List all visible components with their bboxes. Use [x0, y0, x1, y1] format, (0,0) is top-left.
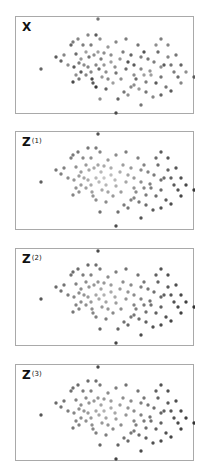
data-point [59, 289, 62, 292]
data-point [172, 300, 175, 303]
data-point [169, 63, 172, 66]
data-point [118, 57, 121, 60]
data-point [76, 150, 79, 153]
panel-z3: Z(3) [15, 364, 194, 461]
data-point [159, 439, 162, 442]
data-point [94, 198, 97, 201]
data-point [139, 285, 142, 288]
data-point [111, 311, 114, 314]
data-point [77, 423, 80, 426]
data-point [139, 216, 142, 219]
data-point [79, 183, 82, 186]
data-point [91, 194, 94, 197]
data-point [159, 383, 162, 386]
data-point [136, 389, 139, 392]
data-point [77, 307, 80, 310]
data-point [62, 399, 65, 402]
panel-z1: Z(1) [15, 131, 194, 230]
data-point [86, 178, 89, 181]
data-point [139, 297, 142, 300]
data-point [166, 55, 169, 58]
data-point [102, 164, 105, 167]
data-point [71, 270, 74, 273]
scatter-plot-x [16, 17, 195, 115]
data-point [114, 224, 117, 227]
data-point [146, 287, 149, 290]
data-point [176, 421, 179, 424]
data-point [149, 186, 152, 189]
data-point [169, 176, 172, 179]
data-point [69, 156, 72, 159]
data-point [166, 401, 169, 404]
data-point [179, 194, 182, 197]
data-point [66, 293, 69, 296]
data-point [74, 73, 77, 76]
data-point [76, 37, 79, 40]
data-point [104, 200, 107, 203]
data-point [154, 156, 157, 159]
panel-label-x: X [22, 21, 32, 33]
data-point [86, 379, 89, 382]
data-point [146, 170, 149, 173]
data-point [154, 194, 157, 197]
data-point [96, 163, 99, 166]
data-point [99, 403, 102, 406]
data-point [86, 33, 89, 36]
data-point [137, 200, 140, 203]
data-point [109, 173, 112, 176]
data-point [166, 156, 169, 159]
data-point [109, 60, 112, 63]
data-point [81, 43, 84, 46]
data-point [151, 441, 154, 444]
data-point [159, 206, 162, 209]
data-point [77, 190, 80, 193]
data-point [174, 53, 177, 56]
data-point [91, 427, 94, 430]
data-point [74, 165, 77, 168]
data-point [113, 178, 116, 181]
data-point [109, 283, 112, 286]
data-point [89, 156, 92, 159]
data-point [164, 198, 167, 201]
data-point [59, 405, 62, 408]
data-point [156, 50, 159, 53]
data-point [84, 419, 87, 422]
data-point [159, 188, 162, 191]
data-point [39, 67, 42, 70]
data-point [154, 389, 157, 392]
data-point [91, 81, 94, 84]
data-point [159, 421, 162, 424]
data-point [129, 198, 132, 201]
data-point [149, 73, 152, 76]
data-point [104, 183, 107, 186]
data-point [166, 168, 169, 171]
data-point [156, 396, 159, 399]
data-point [132, 196, 135, 199]
data-point [94, 85, 97, 88]
data-point [100, 188, 103, 191]
data-point [151, 208, 154, 211]
data-point [126, 439, 129, 442]
data-point [179, 427, 182, 430]
data-point [96, 396, 99, 399]
data-point [96, 17, 99, 20]
data-point [72, 178, 75, 181]
data-point [166, 273, 169, 276]
data-point [126, 323, 129, 326]
data-point [74, 52, 77, 55]
data-point [98, 97, 101, 100]
data-point [159, 75, 162, 78]
data-point [84, 73, 87, 76]
data-point [116, 327, 119, 330]
data-point [136, 156, 139, 159]
data-point [174, 399, 177, 402]
data-point [121, 163, 124, 166]
data-point [118, 403, 121, 406]
data-point [96, 132, 99, 135]
data-point [126, 173, 129, 176]
data-point [102, 63, 105, 66]
data-point [148, 182, 151, 185]
data-point [132, 313, 135, 316]
data-point [97, 297, 100, 300]
data-point [81, 389, 84, 392]
